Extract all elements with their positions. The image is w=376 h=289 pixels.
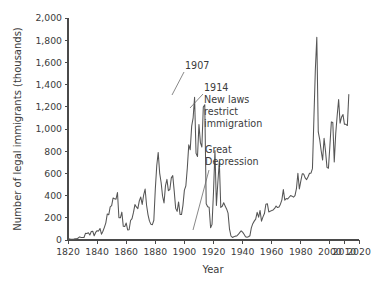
x-tick-label: 1960 xyxy=(260,246,284,257)
x-axis-title: Year xyxy=(201,264,224,275)
y-axis-title: Number of legal immigrants (thousands) xyxy=(12,27,23,231)
x-tick-label: 1840 xyxy=(85,246,109,257)
x-tick-label: 1940 xyxy=(231,246,255,257)
x-tick-label: 1980 xyxy=(289,246,313,257)
y-tick-label: 2,000 xyxy=(35,12,62,23)
x-tick-label: 1900 xyxy=(173,246,197,257)
x-tick-label: 1820 xyxy=(56,246,80,257)
annot-1907-label: 1907 xyxy=(185,60,209,71)
y-tick-label: 1,000 xyxy=(35,123,62,134)
immigration-line-chart: 02004006008001,0001,2001,4001,6001,8002,… xyxy=(0,0,376,289)
y-tick-label: 400 xyxy=(44,190,62,201)
y-tick-label: 1,400 xyxy=(35,79,62,90)
y-tick-label: 800 xyxy=(44,146,62,157)
y-tick-label: 600 xyxy=(44,168,62,179)
x-tick-label: 1920 xyxy=(202,246,226,257)
y-tick-label: 1,600 xyxy=(35,57,62,68)
x-axis-tick-labels: 1820184018601880190019201940196019802000… xyxy=(56,246,371,257)
x-tick-label: 2020 xyxy=(347,246,371,257)
y-tick-label: 1,200 xyxy=(35,101,62,112)
y-tick-label: 0 xyxy=(56,234,62,245)
y-tick-label: 200 xyxy=(44,212,62,223)
y-tick-label: 1,800 xyxy=(35,35,62,46)
x-tick-label: 1880 xyxy=(143,246,167,257)
x-tick-label: 1860 xyxy=(114,246,138,257)
chart-canvas: 02004006008001,0001,2001,4001,6001,8002,… xyxy=(0,0,376,289)
